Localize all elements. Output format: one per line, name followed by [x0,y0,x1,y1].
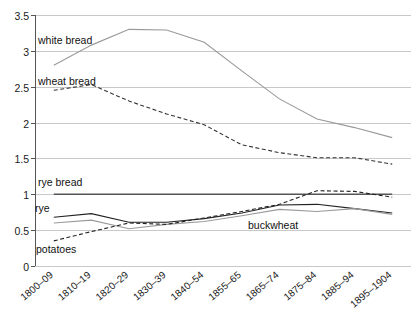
gridlines [35,16,411,267]
x-tick-label: 1800–09 [18,269,55,303]
x-tick-label: 1855–65 [206,269,243,303]
x-tick-label: 1810–19 [56,269,93,303]
data-series-group [54,29,392,241]
x-tick-label: 1840–54 [169,269,206,303]
x-tick-label: 1830–39 [131,269,168,303]
y-axis-tick-labels: 00.511.522.533.5 [14,10,29,273]
series-label-rye-bread: rye bread [38,176,83,188]
series-line-white-bread [54,29,392,137]
axes [31,15,36,267]
y-tick-label: 3 [23,46,29,58]
series-line-rye [54,204,392,222]
chart-plot-area: 00.511.522.533.5 1800–091810–191820–2918… [0,0,417,320]
x-tick-label: 1875–84 [281,269,318,303]
series-line-buckwheat [54,209,392,229]
y-tick-label: 0.5 [14,225,29,237]
series-label-white-bread: white bread [37,34,92,46]
x-tick-label: 1865–74 [244,269,281,303]
y-tick-label: 3.5 [14,10,29,22]
x-tick-label: 1895–1904 [348,269,394,310]
y-tick-label: 1.5 [14,153,29,165]
series-label-wheat-bread: wheat bread [37,75,96,87]
x-axis-tick-labels: 1800–091810–191820–291830–391840–541855–… [18,269,394,310]
series-label-buckwheat: buckwheat [248,219,298,231]
y-tick-label: 0 [23,261,29,273]
series-label-rye: rye [35,202,50,214]
y-tick-label: 1 [23,189,29,201]
x-tick-label: 1820–29 [93,269,130,303]
y-tick-label: 2 [23,118,29,130]
line-chart: 00.511.522.533.5 1800–091810–191820–2918… [0,0,417,320]
series-label-potatoes: potatoes [36,243,76,255]
x-tick-label: 1885–94 [319,269,356,303]
y-tick-label: 2.5 [14,82,29,94]
